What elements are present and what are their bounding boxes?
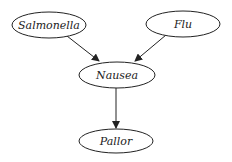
node-nausea: Nausea — [79, 62, 155, 88]
node-label-nausea: Nausea — [95, 69, 138, 82]
node-flu: Flu — [146, 11, 220, 37]
edge-flu-to-nausea — [135, 35, 166, 61]
edge-salmonella-to-nausea — [67, 36, 99, 61]
node-salmonella: Salmonella — [12, 12, 86, 38]
node-label-salmonella: Salmonella — [18, 19, 80, 32]
node-pallor: Pallor — [79, 129, 153, 153]
node-label-flu: Flu — [173, 18, 192, 31]
bayesian-network-diagram: Salmonella Flu Nausea Pallor — [0, 0, 232, 162]
node-label-pallor: Pallor — [99, 135, 133, 148]
